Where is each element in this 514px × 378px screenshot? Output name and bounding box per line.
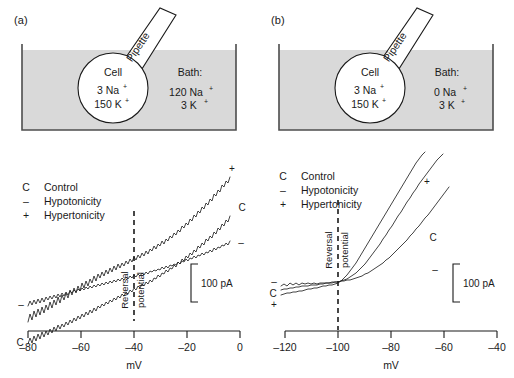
legend-symbol-control-b: C bbox=[279, 170, 287, 182]
legend-label-hypotonicity-a: Hypotonicity bbox=[44, 195, 102, 207]
reversal-word2-b: potential bbox=[339, 232, 350, 268]
xtick-0-b: –120 bbox=[273, 341, 297, 353]
x-axis-label-a: mV bbox=[126, 359, 142, 371]
xtick-2-a: –40 bbox=[125, 341, 143, 353]
trace-label-right-mid-a: C bbox=[238, 202, 245, 213]
xtick-0-a: –80 bbox=[19, 341, 37, 353]
cell-label-b: Cell bbox=[361, 66, 379, 78]
xtick-1-b: –100 bbox=[326, 341, 350, 353]
bath-ion2-sup-a: + bbox=[204, 98, 208, 105]
bath-ion2-b: 3 K bbox=[439, 99, 455, 111]
legend-symbol-control-a: C bbox=[22, 181, 30, 193]
x-axis-label-b: mV bbox=[383, 359, 399, 371]
trace-label-right-top-a: + bbox=[229, 163, 235, 174]
reversal-word1-b: Reversal bbox=[323, 231, 334, 269]
xtick-4-a: 0 bbox=[237, 341, 243, 353]
panel-b-diagram: Cell 3 Na + 150 K + Bath: 0 Na + 3 K + P… bbox=[257, 0, 514, 148]
trace-label-left-top-a: – bbox=[18, 299, 24, 310]
trace-label-right-bottom-a: – bbox=[238, 237, 244, 248]
trace-label-right-bottom-b: – bbox=[432, 264, 438, 275]
cell-label-a: Cell bbox=[104, 66, 122, 78]
panel-b: (b) Cell 3 Na + 150 K + Bath: 0 Na + 3 K… bbox=[257, 0, 514, 378]
xtick-3-b: –60 bbox=[435, 341, 453, 353]
panel-b-plot: C Control – Hypotonicity + Hypertonicity… bbox=[257, 145, 514, 378]
bath-ion2-a: 3 K bbox=[181, 99, 197, 111]
x-axis-b bbox=[285, 331, 497, 338]
legend-symbol-hypotonicity-b: – bbox=[280, 184, 286, 196]
reversal-word2-a: potential bbox=[135, 272, 146, 308]
scalebar-bracket-a bbox=[191, 264, 198, 302]
xtick-1-a: –60 bbox=[72, 341, 90, 353]
bath-ion1-b: 0 Na bbox=[434, 86, 456, 98]
cell-ion1-a: 3 Na bbox=[97, 84, 119, 96]
legend-label-hypotonicity-b: Hypotonicity bbox=[301, 184, 359, 196]
legend-label-hypertonicity-b: Hypertonicity bbox=[301, 198, 362, 210]
cell-ion1-sup-b: + bbox=[380, 83, 384, 90]
legend-label-hypertonicity-a: Hypertonicity bbox=[44, 209, 105, 221]
legend-symbol-hypotonicity-a: – bbox=[23, 195, 29, 207]
x-axis-a bbox=[28, 331, 240, 338]
bath-ion2-sup-b: + bbox=[461, 98, 465, 105]
trace-label-right-top-b: + bbox=[424, 176, 430, 187]
xtick-2-b: –80 bbox=[382, 341, 400, 353]
legend-symbol-hypertonicity-a: + bbox=[23, 209, 29, 221]
scalebar-label-a: 100 pA bbox=[201, 278, 233, 289]
bath-title-a: Bath: bbox=[178, 66, 203, 78]
reversal-word1-a: Reversal bbox=[119, 271, 130, 309]
bath-title-b: Bath: bbox=[435, 66, 460, 78]
cell-ion2-sup-b: + bbox=[382, 97, 386, 104]
legend-symbol-hypertonicity-b: + bbox=[280, 198, 286, 210]
cell-ion1-b: 3 Na bbox=[354, 84, 376, 96]
panel-a-plot: C Control – Hypotonicity + Hypertonicity… bbox=[0, 145, 257, 378]
panel-a-diagram: Cell 3 Na + 150 K + Bath: 120 Na + 3 K +… bbox=[0, 0, 257, 148]
scalebar-bracket-b bbox=[453, 264, 460, 302]
trace-label-left-bottom-b: + bbox=[271, 299, 277, 310]
trace-label-right-mid-b: C bbox=[429, 232, 436, 243]
bath-ion1-a: 120 Na bbox=[169, 86, 203, 98]
panel-a: (a) Cell 3 Na + 150 K + Bath: 120 Na + 3… bbox=[0, 0, 257, 378]
trace-label-left-mid-b: C bbox=[269, 288, 276, 299]
xtick-4-b: –40 bbox=[488, 341, 506, 353]
xtick-3-a: –20 bbox=[178, 341, 196, 353]
bath-ion1-sup-b: + bbox=[463, 85, 467, 92]
bath-ion1-sup-a: + bbox=[209, 85, 213, 92]
trace-label-left-top-b: – bbox=[271, 276, 277, 287]
scalebar-label-b: 100 pA bbox=[463, 278, 495, 289]
cell-ion1-sup-a: + bbox=[123, 83, 127, 90]
cell-ion2-a: 150 K bbox=[94, 98, 121, 110]
legend-label-control-a: Control bbox=[44, 181, 78, 193]
cell-ion2-sup-a: + bbox=[125, 97, 129, 104]
legend-label-control-b: Control bbox=[301, 170, 335, 182]
cell-ion2-b: 150 K bbox=[351, 98, 378, 110]
